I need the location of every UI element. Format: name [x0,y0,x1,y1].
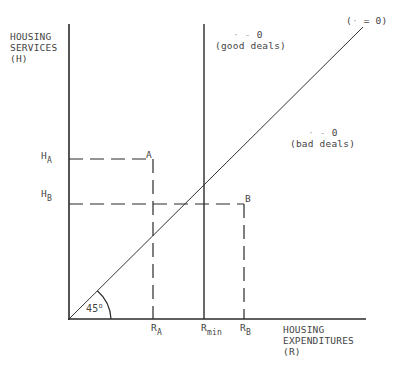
diagonal-label: (· = 0) [346,15,387,26]
point-a-label: A [146,149,152,160]
x-tick-rmin: Rmin [201,322,222,334]
bad-deals-label: · - 0(bad deals) [290,127,355,149]
diagram-canvas [0,0,398,375]
y-tick-hb: HB [41,188,52,200]
point-b-label: B [245,193,251,204]
good-deals-label: · - 0(good deals) [215,29,286,51]
y-tick-ha: HA [41,150,52,162]
diagonal-line [69,27,363,319]
x-tick-rb: RB [240,322,251,334]
x-tick-ra: RA [151,322,162,334]
angle-label: 45o [86,303,103,316]
y-axis-label: HOUSINGSERVICES(H) [10,31,57,64]
x-axis-label: HOUSINGEXPENDITURES(R) [283,324,354,357]
